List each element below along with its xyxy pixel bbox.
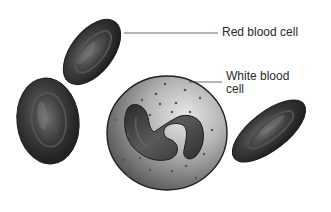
red-blood-cell-right [223,89,316,173]
label-red-blood-cell: Red blood cell [222,26,298,39]
label-white-blood-cell: White blood cell [226,70,306,96]
red-blood-cell-left [13,75,84,167]
red-blood-cell-top [52,9,132,95]
label-white-blood-cell-line2: cell [226,83,306,96]
white-blood-cell [107,76,227,190]
